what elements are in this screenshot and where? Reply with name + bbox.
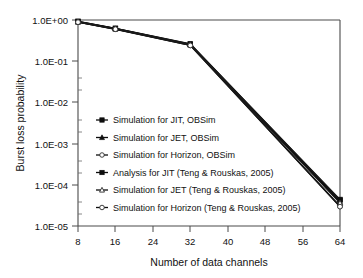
data-point-marker-filled-square <box>100 170 104 174</box>
data-point-marker-open-circle <box>188 43 193 48</box>
x-tick-label: 8 <box>75 236 80 247</box>
legend-item-2[interactable]: Simulation for Horizon, OBSim <box>96 150 235 160</box>
data-point-marker-open-circle <box>338 204 343 209</box>
y-tick-label: 1.0E-05 <box>35 221 68 232</box>
legend-label: Simulation for JIT, OBSim <box>113 115 216 125</box>
y-axis-title: Burst loss probability <box>14 74 26 172</box>
x-tick-label: 56 <box>298 236 309 247</box>
x-tick-label: 40 <box>223 236 234 247</box>
data-point-marker-open-circle <box>113 27 118 32</box>
legend-label: Simulation for JET (Teng & Rouskas, 2005… <box>113 185 285 195</box>
legend-label: Simulation for Horizon (Teng & Rouskas, … <box>113 203 301 213</box>
legend-label: Simulation for Horizon, OBSim <box>113 150 235 160</box>
x-tick-label: 24 <box>148 236 159 247</box>
chart-figure: 1.0E+00 1.0E-01 1.0E-02 1.0E-03 1.0E-04 … <box>0 0 363 278</box>
y-tick-label: 1.0E-03 <box>35 139 68 150</box>
y-tick-label: 1.0E-01 <box>35 56 68 67</box>
legend-item-5[interactable]: Simulation for Horizon (Teng & Rouskas, … <box>96 203 301 213</box>
data-point-marker-open-circle <box>76 20 81 25</box>
y-tick-label: 1.0E+00 <box>32 15 68 26</box>
legend-label: Analysis for JIT (Teng & Rouskas, 2005) <box>113 168 273 178</box>
x-axis-title: Number of data channels <box>150 256 267 268</box>
x-tick-label: 48 <box>260 236 271 247</box>
legend-item-1[interactable]: Simulation for JET, OBSim <box>96 133 219 143</box>
burst-loss-probability-chart: 1.0E+00 1.0E-01 1.0E-02 1.0E-03 1.0E-04 … <box>0 0 363 278</box>
data-point-marker-open-circle <box>100 205 105 210</box>
x-tick-label: 16 <box>110 236 121 247</box>
legend-item-4[interactable]: Simulation for JET (Teng & Rouskas, 2005… <box>96 185 285 195</box>
legend-label: Simulation for JET, OBSim <box>113 133 219 143</box>
legend-item-3[interactable]: Analysis for JIT (Teng & Rouskas, 2005) <box>96 168 273 178</box>
y-tick-label: 1.0E-02 <box>35 97 68 108</box>
data-point-marker-filled-square <box>100 118 104 122</box>
legend-item-0[interactable]: Simulation for JIT, OBSim <box>96 115 216 125</box>
y-tick-label: 1.0E-04 <box>35 180 68 191</box>
x-tick-label: 64 <box>335 236 346 247</box>
data-point-marker-open-circle <box>100 153 105 158</box>
x-tick-label: 32 <box>185 236 196 247</box>
